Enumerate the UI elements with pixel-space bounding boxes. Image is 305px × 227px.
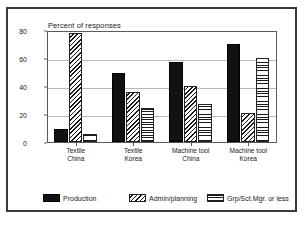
bar xyxy=(169,62,183,142)
x-axis-label-line: Textile xyxy=(124,147,143,155)
gridline-60 xyxy=(48,60,276,61)
x-axis-label-line: China xyxy=(66,155,85,163)
x-axis-label: TextileKorea xyxy=(124,147,143,163)
x-axis-label-line: Textile xyxy=(66,147,85,155)
legend-item[interactable]: Grp/Sct.Mgr. or less xyxy=(207,192,289,204)
x-tick-mark xyxy=(76,143,77,146)
bar xyxy=(256,58,270,142)
x-tick-mark xyxy=(248,143,249,146)
plot-area xyxy=(47,31,277,143)
caption-sliver xyxy=(8,221,188,226)
bar xyxy=(83,134,97,142)
figure-frame: Percent of responses 020406080 TextileCh… xyxy=(6,7,297,212)
legend-label: Admin/planning xyxy=(149,195,197,202)
x-axis-label: TextileChina xyxy=(66,147,85,163)
bar xyxy=(126,92,140,142)
bar xyxy=(184,86,198,142)
legend-swatch-icon xyxy=(207,194,224,202)
legend-label: Grp/Sct.Mgr. or less xyxy=(227,195,289,202)
x-axis-label-line: Machine tool xyxy=(230,147,267,155)
bar xyxy=(69,33,83,142)
x-axis-label-line: Korea xyxy=(230,155,267,163)
legend-item[interactable]: Admin/planning xyxy=(129,192,197,204)
x-tick-mark xyxy=(191,143,192,146)
x-axis-label: Machine toolChina xyxy=(172,147,209,163)
y-tick-label-0: 0 xyxy=(0,140,27,147)
bar xyxy=(54,129,68,142)
legend-item[interactable]: Production xyxy=(43,192,96,204)
bar xyxy=(227,44,241,142)
x-axis-label-line: Korea xyxy=(124,155,143,163)
y-tick-label-60: 60 xyxy=(0,56,27,63)
y-tick-label-40: 40 xyxy=(0,84,27,91)
y-tick-label-20: 20 xyxy=(0,112,27,119)
x-axis-label-line: Machine tool xyxy=(172,147,209,155)
chart-plot-wrapper: Percent of responses 020406080 TextileCh… xyxy=(29,21,279,173)
y-tick-label-80: 80 xyxy=(0,28,27,35)
bar xyxy=(241,113,255,142)
legend-label: Production xyxy=(63,195,96,202)
gridline-40 xyxy=(48,88,276,89)
x-axis-label-line: China xyxy=(172,155,209,163)
bar xyxy=(112,73,126,142)
bar xyxy=(141,108,155,142)
chart-legend: ProductionAdmin/planningGrp/Sct.Mgr. or … xyxy=(29,192,279,206)
legend-swatch-icon xyxy=(43,194,60,202)
x-axis-label: Machine toolKorea xyxy=(230,147,267,163)
bar xyxy=(198,104,212,142)
x-tick-mark xyxy=(133,143,134,146)
y-axis-title: Percent of responses xyxy=(48,21,121,30)
legend-swatch-icon xyxy=(129,194,146,202)
